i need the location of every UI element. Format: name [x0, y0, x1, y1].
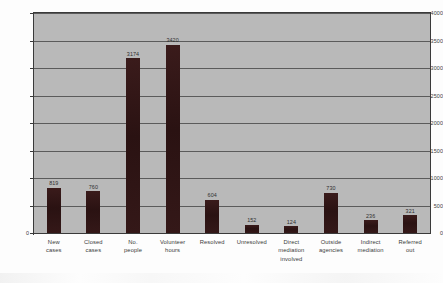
bar-slot: 3420: [153, 13, 193, 233]
bar[interactable]: [126, 58, 140, 233]
bar-value-label: 3174: [127, 51, 139, 57]
y-axis-tick-mark: [30, 68, 33, 69]
bar-slot: 3174: [113, 13, 153, 233]
bar-value-label: 321: [406, 208, 415, 214]
bar-value-label: 236: [366, 213, 375, 219]
bar-slot: 236: [351, 13, 391, 233]
bar[interactable]: [245, 225, 259, 233]
bar-slot: 819: [34, 13, 74, 233]
y-axis-tick-mark: [30, 178, 33, 179]
category-label-line: involved: [263, 255, 320, 263]
bar[interactable]: [47, 188, 61, 233]
category-label-line: Referred: [382, 238, 439, 246]
bar-value-label: 152: [247, 217, 256, 223]
bar-slot: 730: [311, 13, 351, 233]
bar-slot: 760: [74, 13, 114, 233]
bar[interactable]: [205, 200, 219, 233]
bar[interactable]: [166, 45, 180, 233]
bar-value-label: 124: [287, 219, 296, 225]
bar-slot: 321: [390, 13, 430, 233]
y-axis-tick-mark: [30, 206, 33, 207]
category-label: Referredout: [382, 238, 439, 255]
bar-chart: 40003500300025002000150010005000 8197603…: [0, 0, 443, 283]
bar-value-label: 730: [326, 185, 335, 191]
y-axis-tick-mark: [30, 41, 33, 42]
y-axis-tick-mark: [30, 13, 33, 14]
bar-value-label: 819: [49, 180, 58, 186]
bar[interactable]: [403, 215, 417, 233]
bar[interactable]: [364, 220, 378, 233]
bar[interactable]: [86, 191, 100, 233]
bar[interactable]: [284, 226, 298, 233]
y-axis-tick-mark: [30, 96, 33, 97]
bar-value-label: 3420: [166, 37, 178, 43]
category-label-line: hours: [144, 246, 201, 254]
bar-slot: 124: [272, 13, 312, 233]
bar-value-label: 604: [208, 192, 217, 198]
y-axis-zero-label: 0: [20, 230, 29, 236]
bar-slot: 604: [192, 13, 232, 233]
bar-slot: 152: [232, 13, 272, 233]
y-axis-tick-mark: [30, 151, 33, 152]
y-axis-tick-mark: [30, 123, 33, 124]
category-label-line: out: [382, 246, 439, 254]
y-axis-tick-mark: [30, 233, 33, 234]
bar-series: 81976031743420604152124730236321: [34, 13, 430, 233]
bar[interactable]: [324, 193, 338, 233]
bar-value-label: 760: [89, 184, 98, 190]
scan-artifact: [0, 273, 443, 283]
